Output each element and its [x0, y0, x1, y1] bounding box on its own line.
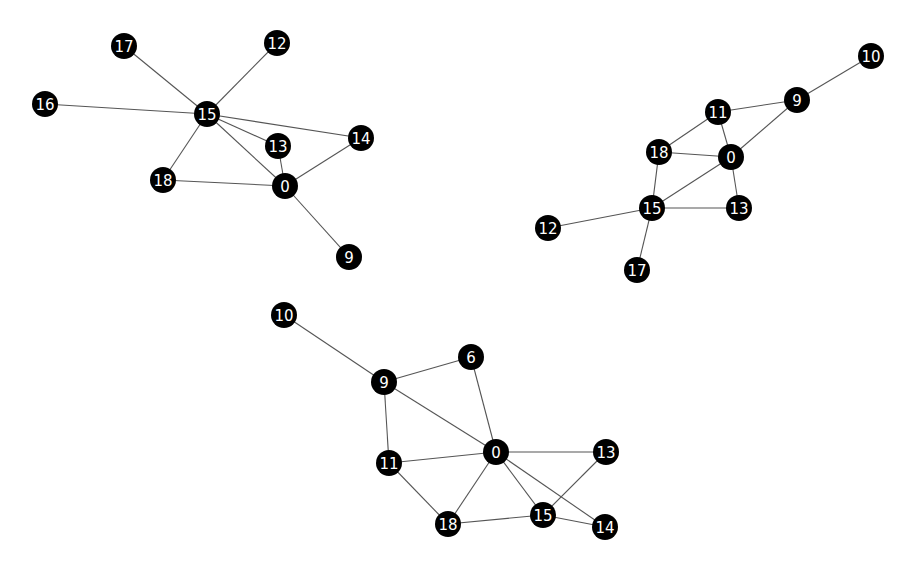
- node-6: 6: [458, 344, 484, 370]
- graph-2: 1091118015131217: [535, 43, 884, 283]
- node-label: 0: [726, 149, 736, 167]
- node-label: 13: [268, 138, 287, 156]
- node-label: 9: [379, 374, 389, 392]
- node-9: 9: [371, 369, 397, 395]
- node-13: 13: [265, 133, 291, 159]
- node-18: 18: [150, 167, 176, 193]
- edge-0-15: [652, 157, 731, 208]
- edge-15-14: [207, 114, 361, 138]
- node-16: 16: [32, 91, 58, 117]
- node-label: 15: [642, 200, 661, 218]
- edge-6-0: [471, 357, 496, 452]
- node-11: 11: [376, 450, 402, 476]
- node-label: 9: [344, 249, 354, 267]
- edge-12-15: [207, 43, 277, 114]
- node-label: 13: [596, 444, 615, 462]
- node-label: 14: [351, 130, 370, 148]
- edge-15-12: [548, 208, 652, 228]
- node-12: 12: [264, 30, 290, 56]
- node-label: 15: [197, 106, 216, 124]
- edge-0-11: [389, 452, 496, 463]
- node-12: 12: [535, 215, 561, 241]
- node-label: 18: [649, 144, 668, 162]
- edge-0-14: [285, 138, 361, 186]
- node-15: 15: [530, 502, 556, 528]
- node-15: 15: [639, 195, 665, 221]
- node-label: 12: [538, 220, 557, 238]
- node-15: 15: [194, 101, 220, 127]
- node-label: 11: [379, 455, 398, 473]
- edge-18-15: [448, 515, 543, 524]
- node-label: 15: [533, 507, 552, 525]
- node-label: 6: [466, 349, 476, 367]
- node-18: 18: [435, 511, 461, 537]
- edge-10-9: [284, 315, 384, 382]
- node-0: 0: [272, 173, 298, 199]
- node-14: 14: [348, 125, 374, 151]
- edge-0-9: [285, 186, 349, 257]
- node-label: 17: [627, 262, 646, 280]
- node-label: 18: [153, 172, 172, 190]
- node-label: 11: [708, 104, 727, 122]
- node-0: 0: [483, 439, 509, 465]
- node-18: 18: [646, 139, 672, 165]
- node-9: 9: [336, 244, 362, 270]
- node-10: 10: [271, 302, 297, 328]
- node-label: 18: [438, 516, 457, 534]
- node-label: 12: [267, 35, 286, 53]
- edge-9-6: [384, 357, 471, 382]
- node-14: 14: [592, 514, 618, 540]
- node-label: 17: [114, 38, 133, 56]
- node-17: 17: [624, 257, 650, 283]
- edge-9-0: [384, 382, 496, 452]
- node-13: 13: [593, 439, 619, 465]
- node-label: 0: [491, 444, 501, 462]
- edge-18-0: [163, 180, 285, 186]
- node-label: 9: [792, 92, 802, 110]
- node-13: 13: [726, 195, 752, 221]
- node-0: 0: [718, 144, 744, 170]
- node-17: 17: [111, 33, 137, 59]
- graph-3: 109601311181514: [271, 302, 619, 540]
- node-label: 13: [729, 200, 748, 218]
- node-10: 10: [858, 43, 884, 69]
- node-11: 11: [705, 99, 731, 125]
- edge-16-15: [45, 104, 207, 114]
- node-label: 16: [35, 96, 54, 114]
- edge-17-15: [124, 46, 207, 114]
- node-label: 0: [280, 178, 290, 196]
- node-9: 9: [784, 87, 810, 113]
- graph-canvas: 1712161514131809109111801513121710960131…: [0, 0, 919, 567]
- node-label: 10: [274, 307, 293, 325]
- node-label: 10: [861, 48, 880, 66]
- graph-1: 1712161514131809: [32, 30, 374, 270]
- node-label: 14: [595, 519, 614, 537]
